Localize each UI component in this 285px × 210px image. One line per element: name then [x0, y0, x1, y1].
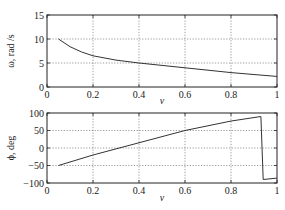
y-tick-label: −100 — [23, 178, 44, 189]
x-tick-label: 0.8 — [225, 185, 238, 196]
x-tick-label: 1 — [275, 185, 280, 196]
y-axis-label: ω, rad /s — [5, 34, 16, 68]
x-tick-label: 0.8 — [225, 89, 238, 100]
x-tick-label: 0 — [45, 89, 50, 100]
x-tick-label: 0.4 — [133, 89, 146, 100]
x-tick-label: 0.6 — [179, 185, 192, 196]
omega-plot: 00.20.40.60.81051015vω, rad /s — [5, 10, 280, 107]
y-tick-label: −50 — [28, 160, 44, 171]
y-axis-label: ϕ, deg — [5, 136, 16, 161]
y-tick-label: 15 — [34, 10, 44, 21]
y-tick-label: 100 — [29, 108, 44, 119]
y-tick-label: 0 — [39, 143, 44, 154]
y-tick-label: 50 — [34, 125, 44, 136]
x-axis-label: v — [160, 192, 165, 203]
y-tick-label: 10 — [34, 34, 44, 45]
phi-plot: 00.20.40.60.81−100−50050100vϕ, deg — [5, 108, 280, 204]
y-tick-label: 0 — [39, 82, 44, 93]
axes-box — [47, 15, 277, 87]
x-tick-label: 0.6 — [179, 89, 192, 100]
figure: 00.20.40.60.81051015vω, rad /s 00.20.40.… — [0, 0, 285, 210]
y-tick-label: 5 — [39, 58, 44, 69]
x-tick-label: 0.2 — [87, 89, 100, 100]
x-tick-label: 0.2 — [87, 185, 100, 196]
x-tick-label: 0 — [45, 185, 50, 196]
x-tick-label: 0.4 — [133, 185, 146, 196]
data-line-omega — [59, 39, 278, 76]
x-axis-label: v — [160, 95, 165, 106]
x-tick-label: 1 — [275, 89, 280, 100]
